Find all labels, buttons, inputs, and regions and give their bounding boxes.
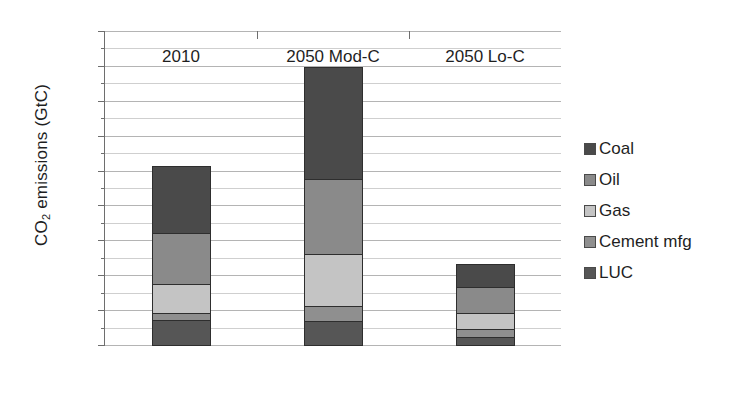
y-tick-mark — [101, 328, 105, 329]
y-tick-mark — [98, 205, 105, 206]
legend-swatch-icon — [584, 143, 596, 155]
legend-swatch-icon — [584, 205, 596, 217]
y-axis-title: CO2 emissions (GtC) — [32, 35, 52, 295]
y-tick-mark — [98, 136, 105, 137]
bar-segment[interactable] — [304, 254, 363, 307]
y-axis-title-subscript: 2 — [40, 214, 52, 220]
y-tick-mark — [101, 153, 105, 154]
y-tick-mark — [101, 188, 105, 189]
y-tick-mark — [101, 223, 105, 224]
bar-segment[interactable] — [456, 264, 515, 288]
y-tick-mark — [98, 345, 105, 346]
legend-label: Gas — [599, 201, 630, 221]
plot-area: 024681012141618 20102050 Mod-C2050 Lo-C — [104, 31, 561, 346]
legend-item[interactable]: Coal — [584, 133, 692, 164]
y-axis-title-rest: emissions (GtC) — [32, 84, 51, 214]
bar-segment[interactable] — [456, 287, 515, 314]
bar-segment[interactable] — [304, 306, 363, 322]
y-tick-mark — [98, 275, 105, 276]
legend-label: Coal — [599, 139, 634, 159]
y-tick-mark — [101, 118, 105, 119]
y-tick-mark — [98, 31, 105, 32]
y-tick-mark — [98, 240, 105, 241]
legend-label: LUC — [599, 263, 633, 283]
y-tick-mark — [98, 171, 105, 172]
y-tick-mark — [98, 310, 105, 311]
legend-label: Cement mfg — [599, 232, 692, 252]
chart-legend: CoalOilGasCement mfgLUC — [584, 133, 692, 288]
legend-swatch-icon — [584, 267, 596, 279]
bar-stack[interactable] — [304, 67, 363, 345]
legend-item[interactable]: Oil — [584, 164, 692, 195]
bar-stack[interactable] — [456, 264, 515, 345]
legend-item[interactable]: Gas — [584, 195, 692, 226]
bar-segment[interactable] — [304, 67, 363, 180]
y-axis-title-main: CO — [32, 220, 51, 246]
bar-segment[interactable] — [152, 233, 211, 285]
stacked-bar-chart: CO2 emissions (GtC) 024681012141618 2010… — [0, 0, 735, 416]
gridline-major — [105, 31, 561, 32]
bar-segment[interactable] — [304, 321, 363, 346]
x-tick-mark — [257, 31, 258, 39]
bar-segment[interactable] — [456, 313, 515, 330]
legend-swatch-icon — [584, 236, 596, 248]
legend-item[interactable]: LUC — [584, 257, 692, 288]
bar-stack[interactable] — [152, 166, 211, 345]
bar-segment[interactable] — [152, 320, 211, 346]
legend-swatch-icon — [584, 174, 596, 186]
bar-segment[interactable] — [152, 284, 211, 314]
x-tick-mark — [409, 31, 410, 39]
bar-segment[interactable] — [456, 337, 515, 347]
legend-label: Oil — [599, 170, 620, 190]
bar-segment[interactable] — [304, 179, 363, 256]
bar-segment[interactable] — [152, 166, 211, 234]
x-tick-label: 2050 Lo-C — [390, 47, 580, 67]
y-tick-mark — [101, 293, 105, 294]
y-tick-mark — [101, 258, 105, 259]
y-tick-mark — [101, 83, 105, 84]
y-tick-mark — [98, 101, 105, 102]
legend-item[interactable]: Cement mfg — [584, 226, 692, 257]
